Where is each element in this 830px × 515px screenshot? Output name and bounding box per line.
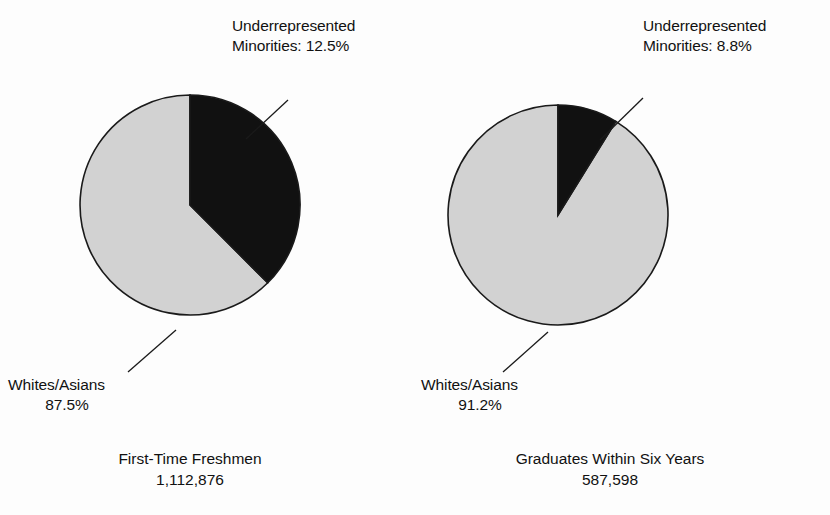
chart-panel-graduates-within-six-years: Underrepresented Minorities: 8.8% Whites… <box>415 0 830 515</box>
slice-label-line2: 87.5% <box>8 395 126 415</box>
pie-graphic-first-time-freshmen <box>0 0 415 515</box>
slice-label-underrepresented-minorities: Underrepresented Minorities: 12.5% <box>232 16 355 56</box>
leader-line-whites-asians <box>503 332 548 372</box>
leader-line-whites-asians <box>128 330 176 372</box>
slice-label-line1: Whites/Asians <box>421 376 518 393</box>
slice-label-line1: Underrepresented <box>643 17 766 34</box>
caption-value: 1,112,876 <box>45 469 335 490</box>
pie-graphic-graduates-within-six-years <box>415 0 830 515</box>
slice-label-line2: Minorities: 8.8% <box>643 37 752 54</box>
slice-label-underrepresented-minorities: Underrepresented Minorities: 8.8% <box>643 16 766 56</box>
slice-label-line2: 91.2% <box>421 395 539 415</box>
caption-title: Graduates Within Six Years <box>516 450 705 467</box>
slice-label-whites-asians: Whites/Asians 91.2% <box>421 375 539 415</box>
slice-label-line2: Minorities: 12.5% <box>232 37 349 54</box>
chart-panel-first-time-freshmen: Underrepresented Minorities: 12.5% White… <box>0 0 415 515</box>
caption-value: 587,598 <box>460 469 760 490</box>
chart-caption-graduates-within-six-years: Graduates Within Six Years 587,598 <box>460 448 760 490</box>
caption-title: First-Time Freshmen <box>118 450 261 467</box>
slice-label-line1: Underrepresented <box>232 17 355 34</box>
slice-label-whites-asians: Whites/Asians 87.5% <box>8 375 126 415</box>
chart-caption-first-time-freshmen: First-Time Freshmen 1,112,876 <box>45 448 335 490</box>
pie-chart-figure: Underrepresented Minorities: 12.5% White… <box>0 0 830 515</box>
slice-label-line1: Whites/Asians <box>8 376 105 393</box>
